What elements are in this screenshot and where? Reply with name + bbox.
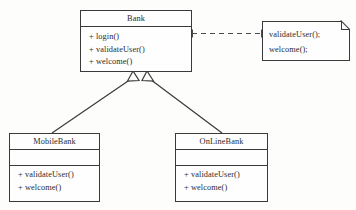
class-attributes-mobilebank xyxy=(10,150,99,166)
operation-item: + validateUser() xyxy=(89,44,191,57)
note-line-item: welcome(); xyxy=(269,42,346,57)
class-attributes-onlinebank xyxy=(176,150,267,166)
uml-class-diagram-canvas: Bank + login() + validateUser() + welcom… xyxy=(0,0,356,210)
class-operations-mobilebank: + validateUser() + welcome() xyxy=(10,166,99,197)
operation-item: + login() xyxy=(89,31,191,44)
class-name-bank: Bank xyxy=(81,11,191,27)
class-name-mobilebank: MobileBank xyxy=(10,134,99,150)
uml-class-bank[interactable]: Bank + login() + validateUser() + welcom… xyxy=(80,10,192,72)
uml-class-mobilebank[interactable]: MobileBank + validateUser() + welcome() xyxy=(9,133,100,202)
note-text: validateUser(); welcome(); xyxy=(269,27,346,57)
generalization-arrowhead-mobilebank xyxy=(128,71,140,81)
operation-item: + welcome() xyxy=(184,182,267,195)
generalization-line-mobilebank xyxy=(52,78,133,133)
class-operations-onlinebank: + validateUser() + welcome() xyxy=(176,166,267,197)
uml-note-bank[interactable]: validateUser(); welcome(); xyxy=(262,21,350,61)
operation-item: + validateUser() xyxy=(184,169,267,182)
class-name-onlinebank: OnLineBank xyxy=(176,134,267,150)
generalization-line-onlinebank xyxy=(149,78,223,133)
note-line-item: validateUser(); xyxy=(269,27,346,42)
generalization-arrowhead-onlinebank xyxy=(142,71,154,81)
uml-class-onlinebank[interactable]: OnLineBank + validateUser() + welcome() xyxy=(175,133,268,202)
operation-item: + welcome() xyxy=(18,182,99,195)
operation-item: + welcome() xyxy=(89,56,191,69)
operation-item: + validateUser() xyxy=(18,169,99,182)
class-operations-bank: + login() + validateUser() + welcome() xyxy=(81,27,191,72)
